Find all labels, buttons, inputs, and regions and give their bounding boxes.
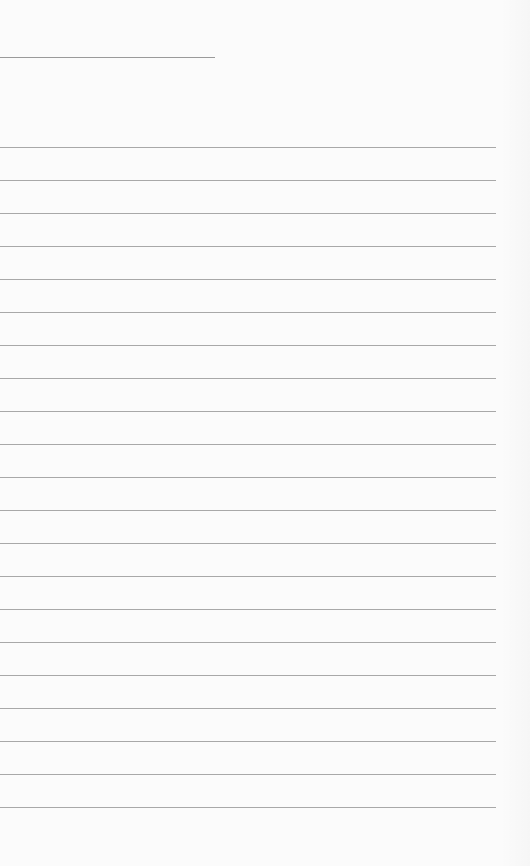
page-edge-shade — [500, 0, 530, 866]
ruled-line — [0, 576, 496, 577]
ruled-line — [0, 279, 496, 280]
ruled-line — [0, 477, 496, 478]
ruled-line — [0, 345, 496, 346]
ruled-line — [0, 510, 496, 511]
ruled-line — [0, 642, 496, 643]
ruled-line — [0, 675, 496, 676]
ruled-line — [0, 246, 496, 247]
ruled-line — [0, 543, 496, 544]
ruled-line — [0, 147, 496, 148]
ruled-line — [0, 774, 496, 775]
ruled-line — [0, 444, 496, 445]
lined-paper — [0, 0, 530, 866]
ruled-line — [0, 411, 496, 412]
ruled-line — [0, 807, 496, 808]
ruled-line — [0, 312, 496, 313]
ruled-line — [0, 741, 496, 742]
ruled-line — [0, 180, 496, 181]
ruled-line — [0, 708, 496, 709]
ruled-line — [0, 213, 496, 214]
header-write-line — [0, 57, 215, 58]
ruled-line — [0, 609, 496, 610]
ruled-line — [0, 378, 496, 379]
